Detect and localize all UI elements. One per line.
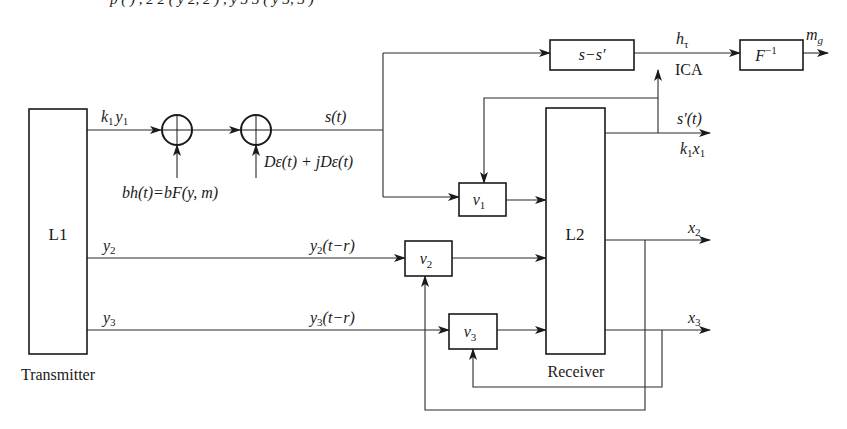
adder-1 (162, 115, 192, 145)
v3-block: v3 (449, 314, 497, 349)
label-y3-delay: y3(t−r) (308, 309, 355, 328)
label-s-t: s(t) (325, 108, 346, 126)
label-y2-delay: y2(t−r) (308, 237, 355, 256)
label-y3: y3 (101, 309, 116, 328)
label-y2: y2 (101, 237, 116, 256)
wires (87, 53, 828, 410)
label-ica: ICA (675, 61, 703, 78)
v1-block: v1 (459, 183, 506, 216)
label-k1y1: k1y1 (101, 108, 128, 127)
label-x3: x3 (687, 309, 701, 328)
formula-fragment: p ( ) , 2 2 ( y 2, 2 ) , y 3 3 ( y 3, 3 … (109, 0, 314, 8)
v2-block: v2 (405, 241, 452, 276)
label-noise-d: Dε(t) + jDε(t) (263, 153, 353, 171)
receiver-caption: Receiver (548, 363, 606, 380)
adder-2 (241, 115, 271, 145)
subtract-label: s−s′ (579, 46, 606, 63)
transmitter-block: L1 (29, 109, 87, 354)
label-s-prime: s′(t) (677, 110, 702, 128)
label-m-g: mg (806, 26, 824, 46)
label-h-tau: hτ (676, 30, 689, 50)
subtract-block: s−s′ (550, 40, 634, 70)
label-k1x1: k1x1 (680, 140, 705, 159)
transmitter-label: L1 (49, 225, 68, 244)
label-noise-bh: bh(t)=bF(y, m) (122, 184, 218, 202)
receiver-block: L2 (546, 108, 605, 354)
transmitter-caption: Transmitter (21, 366, 96, 383)
label-x2: x2 (687, 219, 701, 238)
block-diagram: p ( ) , 2 2 ( y 2, 2 ) , y 3 3 ( y 3, 3 … (0, 0, 847, 429)
inverse-transform-block: F−1 (740, 40, 803, 70)
receiver-label: L2 (566, 225, 585, 244)
